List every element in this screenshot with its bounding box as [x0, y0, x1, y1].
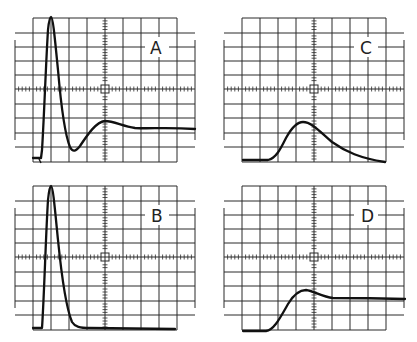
scope-panel-d: D: [224, 186, 405, 331]
scope-panel-c: C: [224, 18, 404, 162]
panel-label-c: C: [360, 38, 372, 58]
panel-label-b: B: [151, 206, 163, 226]
trace-a: [33, 17, 195, 158]
trace-d: [243, 290, 405, 331]
scope-panel-b: B: [15, 186, 195, 330]
scope-panel-a: A: [15, 17, 195, 163]
panel-label-d: D: [361, 206, 374, 226]
panel-label-a: A: [150, 38, 162, 58]
oscilloscope-figure: A C B D: [0, 0, 417, 342]
